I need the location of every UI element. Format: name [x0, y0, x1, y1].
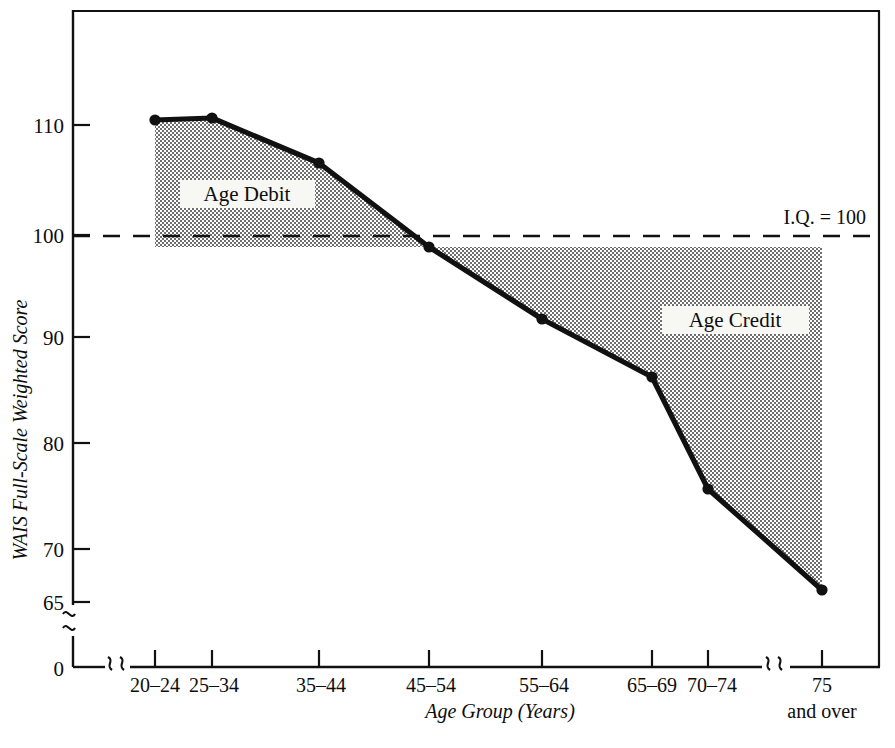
- age-credit-annotation: Age Credit: [662, 306, 809, 334]
- age-debit-label: Age Debit: [204, 182, 291, 206]
- y-tick-label-65: 65: [43, 591, 64, 615]
- x-tick-sublabel-and-over: and over: [787, 700, 857, 722]
- x-tick-label-70-74: 70–74: [687, 674, 737, 696]
- data-point-25-34: [206, 112, 217, 123]
- wais-score-by-age-chart: 110 100 90 80 70 65 0 WAIS Full-Scale We…: [0, 0, 895, 748]
- x-tick-label-75: 75: [812, 674, 832, 696]
- data-point-20-24: [149, 114, 160, 125]
- data-point-45-54: [423, 241, 434, 252]
- x-tick-label-35-44: 35–44: [296, 674, 346, 696]
- y-tick-label-70: 70: [43, 538, 64, 562]
- x-tick-label-65-69: 65–69: [627, 674, 677, 696]
- data-point-55-64: [536, 313, 547, 324]
- x-tick-label-20-24: 20–24: [130, 674, 180, 696]
- x-tick-label-45-54: 45–54: [406, 674, 456, 696]
- x-tick-label-55-64: 55–64: [519, 674, 569, 696]
- y-tick-label-100: 100: [33, 224, 65, 248]
- x-tick-label-25-34: 25–34: [189, 674, 239, 696]
- y-axis-title: WAIS Full-Scale Weighted Score: [9, 299, 32, 560]
- y-tick-label-0: 0: [54, 657, 65, 681]
- y-tick-label-110: 110: [33, 114, 64, 138]
- x-axis-title: Age Group (Years): [423, 700, 575, 723]
- age-debit-annotation: Age Debit: [180, 180, 315, 208]
- age-credit-label: Age Credit: [689, 308, 782, 332]
- iq-reference-label: I.Q. = 100: [784, 206, 866, 228]
- data-point-65-69: [646, 371, 657, 382]
- y-tick-label-80: 80: [43, 432, 64, 456]
- data-point-75-and-over: [816, 584, 827, 595]
- chart-container: 110 100 90 80 70 65 0 WAIS Full-Scale We…: [0, 0, 895, 748]
- data-point-70-74: [702, 483, 713, 494]
- y-tick-label-90: 90: [43, 326, 64, 350]
- data-point-35-44: [313, 157, 324, 168]
